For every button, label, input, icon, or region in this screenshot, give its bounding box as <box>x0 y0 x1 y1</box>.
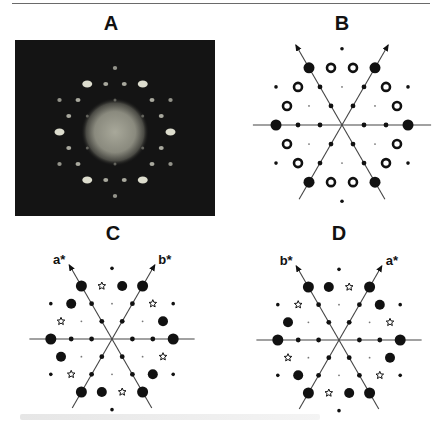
axis-label-left: b* <box>280 253 294 268</box>
axis-label-right: a* <box>386 253 399 268</box>
figure-caption-blurred <box>20 414 320 420</box>
lattice-diagram-d: b*a* <box>0 0 433 426</box>
